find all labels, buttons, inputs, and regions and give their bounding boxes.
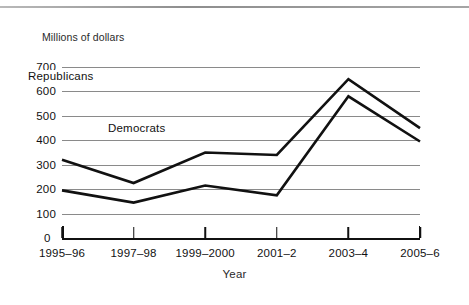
x-tick-mark-2	[204, 227, 206, 238]
y-axis-title: Millions of dollars	[42, 31, 124, 43]
x-tick-label-1: 1997–98	[111, 247, 157, 259]
series-lines-svg	[62, 67, 420, 238]
y-tick-label-500: 500	[36, 110, 56, 122]
y-tick-label-600: 600	[36, 85, 56, 97]
y-tick-label-300: 300	[36, 159, 56, 171]
x-axis-line	[62, 238, 420, 240]
x-tick-mark-0	[61, 227, 63, 238]
y-tick-label-100: 100	[36, 208, 56, 220]
y-axis-zero-label: 0	[44, 232, 50, 244]
x-tick-label-2: 1999–2000	[176, 247, 235, 259]
x-axis-title: Year	[0, 268, 469, 280]
x-tick-mark-4	[348, 227, 350, 238]
x-tick-mark-3	[276, 227, 278, 238]
series-label-republicans: Republicans	[26, 70, 96, 82]
x-tick-label-5: 2005–6	[400, 247, 440, 259]
y-tick-label-200: 200	[36, 183, 56, 195]
top-divider-rule	[0, 6, 469, 8]
x-tick-label-3: 2001–2	[257, 247, 297, 259]
x-tick-label-4: 2003–4	[329, 247, 369, 259]
x-tick-mark-5	[419, 227, 421, 238]
series-label-democrats: Democrats	[106, 122, 167, 134]
plot-area: 100200300400500600700 1995–961997–981999…	[62, 67, 420, 238]
x-tick-mark-1	[133, 227, 135, 238]
line-series-democrats	[62, 96, 420, 202]
line-chart-figure: Millions of dollars 10020030040050060070…	[0, 0, 469, 305]
y-tick-label-400: 400	[36, 134, 56, 146]
x-tick-label-0: 1995–96	[39, 247, 85, 259]
